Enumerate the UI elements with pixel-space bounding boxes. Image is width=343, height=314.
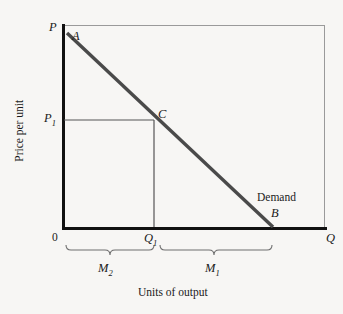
price-level-label: P1 bbox=[44, 112, 56, 127]
segment-m1-letter: M bbox=[205, 261, 215, 275]
quantity-level-letter: Q bbox=[144, 231, 153, 245]
segment-m2-letter: M bbox=[98, 261, 108, 275]
point-c-label: C bbox=[158, 108, 166, 121]
x-axis-line bbox=[62, 227, 327, 230]
origin-label: 0 bbox=[52, 232, 58, 244]
x-axis-title: Units of output bbox=[138, 287, 208, 299]
demand-curve-label: Demand bbox=[257, 192, 296, 204]
price-level-subscript: 1 bbox=[52, 118, 56, 128]
segment-m1-label: M1 bbox=[205, 262, 220, 277]
price-level-letter: P bbox=[44, 111, 52, 125]
brace-m1 bbox=[160, 245, 272, 255]
segment-m2-subscript: 2 bbox=[108, 268, 112, 278]
brace-m2 bbox=[66, 245, 154, 255]
y-axis-top-label: P bbox=[49, 21, 57, 34]
segment-m1-subscript: 1 bbox=[215, 268, 219, 278]
demand-curve-figure: P A P1 C Demand B 0 Q1 Q M2 M1 Price per… bbox=[0, 0, 343, 314]
y-axis-line bbox=[62, 24, 65, 230]
x-axis-end-label: Q bbox=[326, 232, 335, 245]
point-b-label: B bbox=[271, 207, 279, 220]
y-axis-title: Price per unit bbox=[14, 83, 26, 179]
quantity-level-label: Q1 bbox=[144, 232, 157, 247]
point-a-label: A bbox=[72, 30, 80, 43]
quantity-level-subscript: 1 bbox=[153, 238, 157, 248]
segment-m2-label: M2 bbox=[98, 262, 113, 277]
